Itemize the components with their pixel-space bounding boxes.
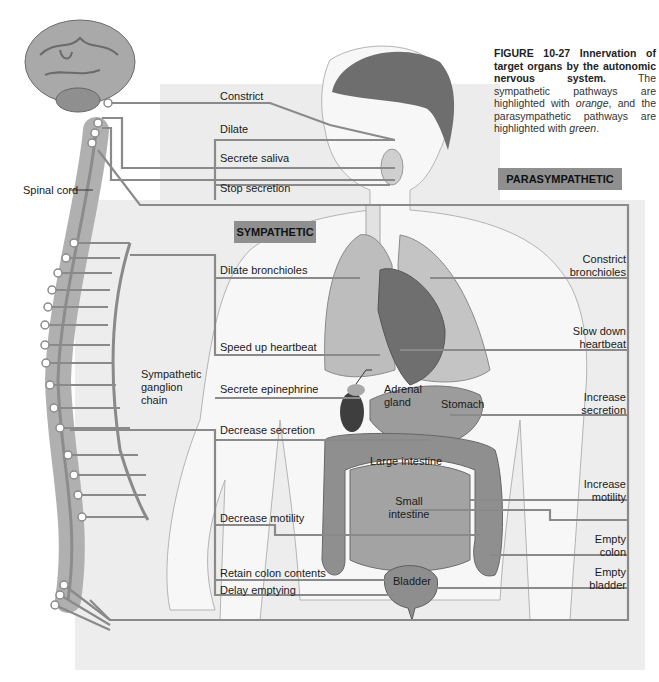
bladder-shape xyxy=(384,566,437,620)
vertebral-column xyxy=(58,130,96,600)
effect-stop-secretion: Stop secretion xyxy=(220,182,290,195)
effect-increase-motility: Increase motility xyxy=(570,478,626,504)
caption-green: green xyxy=(569,122,596,134)
effect-empty-colon: Empty colon xyxy=(576,533,626,559)
effect-decrease-secretion: Decrease secretion xyxy=(220,424,315,437)
figure-number: FIGURE 10-27 xyxy=(494,47,570,59)
ganglion-chain-label: Sympathetic ganglion chain xyxy=(141,368,211,407)
stomach-label: Stomach xyxy=(441,398,484,411)
effect-retain-colon-contents: Retain colon contents xyxy=(220,567,326,580)
spinal-cord-label: Spinal cord xyxy=(23,184,78,197)
figure-caption: FIGURE 10-27 Innervation of target organ… xyxy=(494,47,656,135)
effect-constrict: Constrict xyxy=(220,90,263,103)
sympathetic-badge: SYMPATHETIC xyxy=(234,221,316,243)
small-intestine-label: Small intestine xyxy=(387,495,431,521)
effect-slow-down-heartbeat: Slow down heartbeat xyxy=(566,325,626,351)
effect-decrease-motility: Decrease motility xyxy=(220,512,304,525)
adrenal-gland-shape xyxy=(347,384,365,396)
effect-dilate-bronchioles: Dilate bronchioles xyxy=(220,264,307,277)
effect-increase-secretion: Increase secretion xyxy=(566,391,626,417)
adrenal-gland-label: Adrenal gland xyxy=(384,383,430,409)
effect-delay-emptying: Delay emptying xyxy=(220,584,296,597)
effect-secrete-saliva: Secrete saliva xyxy=(220,152,289,165)
effect-dilate: Dilate xyxy=(220,123,248,136)
brain-illustration xyxy=(25,20,135,112)
effect-empty-bladder: Empty bladder xyxy=(576,566,626,592)
effect-secrete-epinephrine: Secrete epinephrine xyxy=(220,383,318,396)
parasympathetic-badge: PARASYMPATHETIC xyxy=(498,168,622,190)
bladder-label: Bladder xyxy=(393,575,431,588)
caption-orange: orange xyxy=(576,97,609,109)
effect-speed-up-heartbeat: Speed up heartbeat xyxy=(220,341,317,354)
large-intestine-label: Large intestine xyxy=(370,455,442,468)
effect-constrict-bronchioles: Constrict bronchioles xyxy=(560,253,626,279)
caption-text-3: . xyxy=(596,122,599,134)
